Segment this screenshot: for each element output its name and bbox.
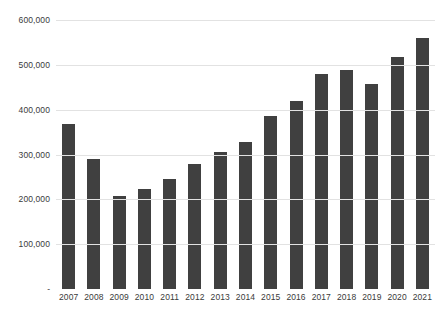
bar[interactable] (365, 84, 378, 289)
bar[interactable] (239, 142, 252, 289)
y-tick-label: 100,000 (4, 240, 50, 249)
bar[interactable] (87, 159, 100, 289)
gridline (56, 199, 435, 200)
bar-chart: -100,000200,000300,000400,000500,000600,… (0, 0, 447, 322)
bar[interactable] (315, 74, 328, 289)
bar[interactable] (416, 38, 429, 289)
gridline (56, 20, 435, 21)
y-axis: -100,000200,000300,000400,000500,000600,… (0, 20, 50, 289)
gridline (56, 110, 435, 111)
bar[interactable] (188, 164, 201, 289)
y-tick-label: 400,000 (4, 106, 50, 115)
y-tick-label: - (4, 285, 50, 294)
gridline (56, 155, 435, 156)
bar[interactable] (264, 116, 277, 289)
gridline (56, 65, 435, 66)
y-tick-label: 500,000 (4, 61, 50, 70)
y-tick-label: 600,000 (4, 16, 50, 25)
bar[interactable] (163, 179, 176, 289)
bar[interactable] (214, 152, 227, 289)
y-tick-label: 200,000 (4, 195, 50, 204)
bar[interactable] (391, 57, 404, 289)
bar[interactable] (138, 189, 151, 289)
y-tick-label: 300,000 (4, 151, 50, 160)
bar[interactable] (290, 101, 303, 289)
bar[interactable] (62, 124, 75, 289)
bar[interactable] (340, 70, 353, 289)
plot-area (56, 20, 435, 289)
x-axis: 2007200820092010201120122013201420152016… (56, 293, 435, 309)
gridline (56, 244, 435, 245)
bar[interactable] (113, 196, 126, 289)
x-tick-label: 2021 (407, 293, 437, 302)
